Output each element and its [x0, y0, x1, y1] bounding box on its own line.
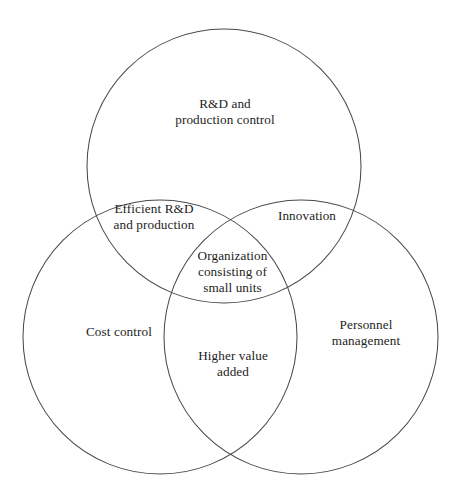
venn-circle-top [87, 29, 361, 303]
venn-diagram-figure: R&D and production control Efficient R&D… [0, 0, 461, 501]
venn-circles-svg [0, 0, 461, 501]
venn-circle-right [164, 200, 438, 474]
venn-circle-left [23, 200, 297, 474]
figure-caption [0, 491, 461, 501]
